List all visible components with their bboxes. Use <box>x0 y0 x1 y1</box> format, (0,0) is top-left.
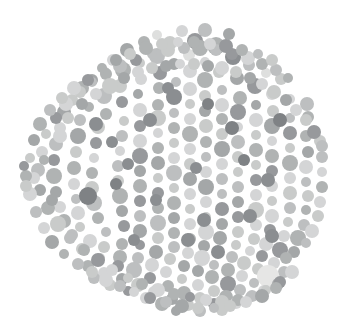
plate-dot <box>214 141 230 157</box>
plate-dot <box>216 113 228 125</box>
plate-dot <box>153 128 163 138</box>
plate-dot <box>230 104 246 120</box>
plate-dot <box>68 178 80 190</box>
plate-dot <box>208 285 220 297</box>
plate-dot <box>149 245 163 259</box>
plate-dot <box>169 138 179 148</box>
plate-dot <box>30 206 42 218</box>
plate-dot <box>245 246 255 256</box>
plate-dot <box>280 94 292 106</box>
plate-dot <box>231 240 241 250</box>
plate-dot <box>48 154 60 166</box>
plate-dot <box>122 158 134 170</box>
plate-dot <box>226 251 238 263</box>
plate-dot <box>197 72 213 88</box>
plate-dot <box>112 188 128 204</box>
plate-dot <box>102 78 118 94</box>
ishihara-plate-canvas <box>0 0 344 335</box>
plate-dot <box>249 113 263 127</box>
plate-dot <box>70 128 86 144</box>
plate-dot <box>62 112 74 124</box>
plate-dot <box>167 196 181 210</box>
plate-dot <box>98 241 110 253</box>
plate-dot <box>301 177 311 187</box>
plate-dot <box>184 143 196 155</box>
plate-dot <box>220 276 236 292</box>
plate-dot <box>139 41 153 55</box>
plate-dot <box>284 202 296 214</box>
plate-dot <box>307 125 321 139</box>
plate-dot <box>75 222 85 232</box>
plate-dot <box>316 140 328 152</box>
plate-dot <box>168 227 180 239</box>
plate-dot <box>221 263 235 277</box>
plate-dot <box>250 189 262 201</box>
plate-dot <box>181 233 195 247</box>
plate-dot <box>265 229 279 243</box>
plate-dot <box>136 278 148 290</box>
plate-dot <box>119 116 129 126</box>
plate-dot <box>255 289 269 303</box>
plate-dot <box>236 44 248 56</box>
plate-dot <box>273 113 287 127</box>
plate-dot <box>237 256 251 270</box>
plate-dot <box>282 155 298 171</box>
plate-dot <box>198 240 210 252</box>
plate-dot <box>56 92 68 104</box>
plate-dot <box>317 167 327 177</box>
plate-dot <box>76 98 88 110</box>
plate-dot <box>128 234 140 246</box>
plate-dot <box>39 155 49 165</box>
plate-dot <box>53 129 67 143</box>
plate-dot <box>209 260 219 270</box>
plate-dot <box>133 179 147 193</box>
plate-dot <box>283 73 293 83</box>
plate-dot <box>216 158 228 170</box>
plate-dot <box>132 148 148 164</box>
plate-dot <box>250 174 262 186</box>
plate-dot <box>198 179 214 195</box>
plate-dot <box>114 280 126 292</box>
plate-dot <box>178 260 190 272</box>
plate-dot <box>225 121 239 135</box>
plate-dot <box>182 247 194 259</box>
plate-dot <box>284 172 296 184</box>
plate-dot <box>45 235 59 249</box>
plate-dot <box>115 146 125 156</box>
plate-dot <box>301 238 311 248</box>
plate-dot <box>232 196 244 208</box>
plate-dot <box>184 113 196 125</box>
plate-dot <box>211 245 225 259</box>
plate-dot <box>133 103 147 117</box>
plate-dot <box>200 136 212 148</box>
plate-dot <box>110 178 122 190</box>
plate-dot <box>249 143 263 157</box>
plate-dot <box>116 130 128 142</box>
plate-dot <box>231 135 245 149</box>
plate-dot <box>232 226 244 238</box>
plate-dot <box>234 284 246 296</box>
plate-dot <box>156 38 168 50</box>
plate-dot <box>217 85 227 95</box>
plate-dot <box>183 82 197 96</box>
plate-dot <box>160 266 172 278</box>
plate-dot <box>185 292 195 302</box>
plate-dot <box>290 104 302 116</box>
plate-dot <box>249 278 259 288</box>
plate-dot <box>316 181 328 193</box>
plate-dot <box>151 156 165 170</box>
ishihara-plate-container <box>0 0 344 335</box>
plate-dot <box>116 238 128 250</box>
plate-dot <box>150 194 162 206</box>
plate-dot <box>89 117 103 131</box>
plate-dot <box>168 122 180 134</box>
plate-dot <box>305 224 319 238</box>
plate-dot <box>223 28 235 40</box>
plate-dot <box>86 167 98 179</box>
plate-dot <box>314 196 326 208</box>
plate-dot <box>168 152 180 164</box>
plate-dot <box>46 194 58 206</box>
plate-dot <box>150 215 166 231</box>
plate-dot <box>44 104 56 116</box>
plate-dot <box>199 119 213 133</box>
